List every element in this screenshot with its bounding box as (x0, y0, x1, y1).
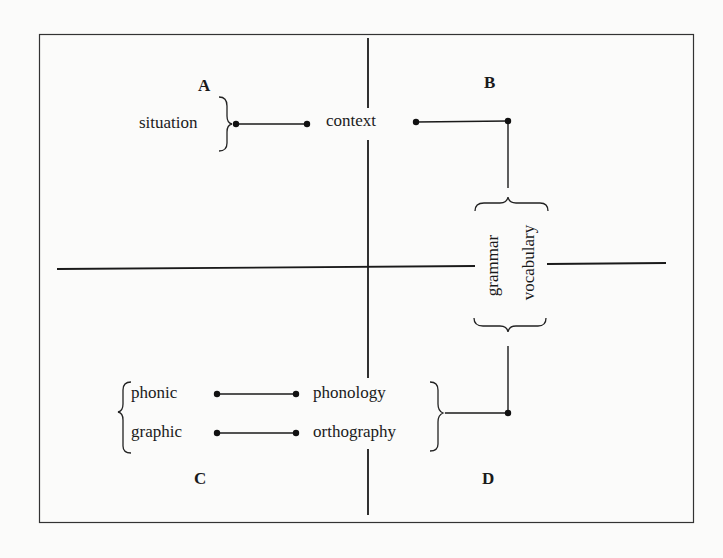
node-dot (505, 410, 511, 416)
quadrant-label-b: B (484, 74, 495, 91)
brace-bottom (474, 318, 546, 332)
connector-context-right (416, 121, 508, 122)
quadrant-label-d: D (482, 470, 494, 487)
node-phonic: phonic (131, 384, 177, 401)
quadrant-label-a: A (198, 77, 210, 94)
node-dot (233, 121, 239, 127)
node-dot (214, 430, 220, 436)
brace-phonology-orthography (430, 382, 443, 451)
node-grammar: grammar (484, 228, 501, 304)
node-orthography: orthography (313, 423, 396, 440)
node-dot (304, 121, 310, 127)
node-dot (413, 119, 419, 125)
horizontal-axis-left (57, 266, 475, 269)
node-dot (214, 391, 220, 397)
node-context: context (326, 112, 376, 129)
frame-border (40, 35, 694, 523)
node-situation: situation (139, 114, 198, 131)
quadrant-label-c: C (194, 470, 206, 487)
horizontal-axis-right (547, 263, 666, 264)
node-graphic: graphic (131, 423, 182, 440)
brace-situation (219, 97, 232, 151)
diagram-lines (0, 0, 723, 558)
node-phonology: phonology (313, 384, 386, 401)
node-dot (505, 118, 511, 124)
brace-top (475, 197, 548, 211)
brace-phonic-graphic (118, 382, 131, 453)
node-dot (293, 430, 299, 436)
node-dot (293, 391, 299, 397)
node-vocabulary: vocabulary (520, 215, 537, 311)
